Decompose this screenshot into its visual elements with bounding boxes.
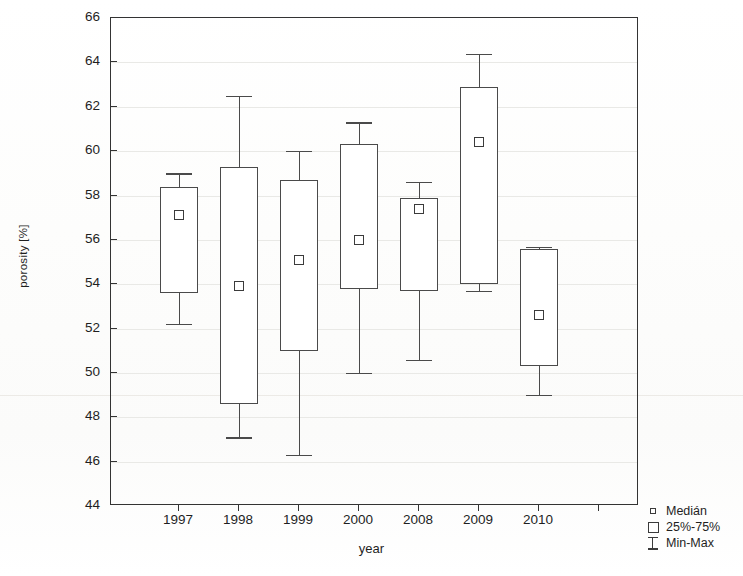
box-range-icon <box>645 522 661 533</box>
y-tick-label: 48 <box>60 409 100 423</box>
max-cap <box>406 182 432 183</box>
legend-item-median: Medián <box>645 503 720 519</box>
x-tick-label: 1997 <box>148 512 208 527</box>
median-marker <box>414 204 424 214</box>
x-tick-label: 2008 <box>388 512 448 527</box>
x-tick-label: 2010 <box>508 512 568 527</box>
y-axis-title: porosity [%] <box>17 201 29 311</box>
y-tick-mark <box>110 283 117 284</box>
x-tick-mark <box>298 505 299 511</box>
lower-whisker <box>539 366 540 395</box>
median-marker <box>534 310 544 320</box>
upper-whisker <box>479 54 480 87</box>
y-tick-mark <box>110 150 117 151</box>
min-cap <box>346 373 372 374</box>
x-axis-title: year <box>0 541 743 556</box>
min-cap <box>526 395 552 396</box>
upper-whisker <box>179 173 180 186</box>
min-cap <box>226 437 252 438</box>
gridline <box>111 329 637 330</box>
y-tick-label: 46 <box>60 454 100 468</box>
lower-whisker <box>179 293 180 324</box>
whisker-range-icon <box>645 537 661 550</box>
x-tick-mark <box>538 505 539 511</box>
median-marker <box>354 235 364 245</box>
quartile-box <box>160 187 198 294</box>
max-cap <box>466 54 492 55</box>
y-tick-label: 60 <box>60 143 100 157</box>
legend-label-median: Medián <box>661 503 707 519</box>
boxplot-chart: porosity [%] 444648505254565860626466 19… <box>0 0 743 576</box>
y-tick-label: 54 <box>60 276 100 290</box>
y-tick-mark <box>110 61 117 62</box>
y-tick-mark <box>110 239 117 240</box>
lower-whisker <box>359 289 360 373</box>
upper-whisker <box>419 182 420 198</box>
y-tick-mark <box>110 461 117 462</box>
y-tick-mark <box>110 416 117 417</box>
gridline <box>111 417 637 418</box>
y-tick-mark <box>110 372 117 373</box>
lower-whisker <box>299 351 300 455</box>
x-tick-mark <box>358 505 359 511</box>
median-marker-icon <box>645 508 661 514</box>
x-tick-mark <box>238 505 239 511</box>
min-cap <box>406 360 432 361</box>
gridline <box>111 62 637 63</box>
max-cap <box>346 122 372 123</box>
quartile-box <box>520 249 558 367</box>
y-tick-label: 66 <box>60 10 100 24</box>
median-marker <box>174 210 184 220</box>
y-tick-label: 56 <box>60 232 100 246</box>
max-cap <box>166 173 192 174</box>
legend-label-quartile: 25%-75% <box>661 519 720 535</box>
y-tick-label: 52 <box>60 321 100 335</box>
legend-item-minmax: Min-Max <box>645 535 720 551</box>
y-tick-mark <box>110 195 117 196</box>
lower-whisker <box>419 291 420 360</box>
x-tick-label: 1999 <box>268 512 328 527</box>
gridline <box>111 373 637 374</box>
y-tick-label: 64 <box>60 54 100 68</box>
y-tick-label: 50 <box>60 365 100 379</box>
median-marker <box>474 137 484 147</box>
x-tick-label: 1998 <box>208 512 268 527</box>
upper-whisker <box>299 151 300 180</box>
plot-area <box>110 17 638 505</box>
x-tick-label: 2009 <box>448 512 508 527</box>
min-cap <box>166 324 192 325</box>
lower-whisker <box>239 404 240 437</box>
y-tick-label: 62 <box>60 99 100 113</box>
x-tick-mark <box>478 505 479 511</box>
max-cap <box>526 247 552 248</box>
quartile-box <box>280 180 318 351</box>
y-tick-mark <box>110 328 117 329</box>
max-cap <box>286 151 312 152</box>
quartile-box <box>460 87 498 284</box>
x-tick-mark <box>178 505 179 511</box>
legend-label-minmax: Min-Max <box>661 535 714 551</box>
quartile-box <box>340 144 378 288</box>
min-cap <box>466 291 492 292</box>
legend: Medián 25%-75% Min-Max <box>645 503 720 551</box>
y-tick-mark <box>110 106 117 107</box>
median-marker <box>294 255 304 265</box>
x-tick-mark <box>598 505 599 511</box>
gridline <box>111 462 637 463</box>
legend-item-quartile: 25%-75% <box>645 519 720 535</box>
median-marker <box>234 281 244 291</box>
upper-whisker <box>239 96 240 167</box>
x-tick-mark <box>418 505 419 511</box>
upper-whisker <box>359 122 360 144</box>
y-tick-label: 58 <box>60 188 100 202</box>
max-cap <box>226 96 252 97</box>
min-cap <box>286 455 312 456</box>
gridline <box>111 107 637 108</box>
x-tick-label: 2000 <box>328 512 388 527</box>
y-tick-label: 44 <box>60 498 100 512</box>
